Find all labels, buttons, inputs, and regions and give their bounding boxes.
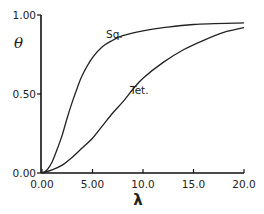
- x-axis-label: λ: [133, 191, 143, 209]
- ticks: 0.005.0010.015.020.00.000.501.00: [13, 9, 256, 190]
- y-tick-label: 0.50: [13, 88, 36, 100]
- y-tick-label: 0.00: [13, 167, 36, 179]
- x-tick-label: 15.0: [182, 178, 205, 190]
- curve-sq: [42, 23, 244, 173]
- y-axis-label: θ: [14, 34, 23, 52]
- x-tick-label: 20.0: [232, 178, 255, 190]
- x-tick-label: 10.0: [131, 178, 154, 190]
- curve-label-tet: Tet.: [129, 84, 149, 96]
- y-tick-label: 1.00: [13, 9, 36, 21]
- x-tick-label: 0.00: [30, 178, 53, 190]
- curves: [42, 23, 244, 173]
- adsorption-curve-chart: 0.005.0010.015.020.00.000.501.00 θ λ Sq.…: [0, 0, 264, 214]
- curve-label-sq: Sq.: [106, 28, 123, 40]
- x-tick-label: 5.00: [81, 178, 104, 190]
